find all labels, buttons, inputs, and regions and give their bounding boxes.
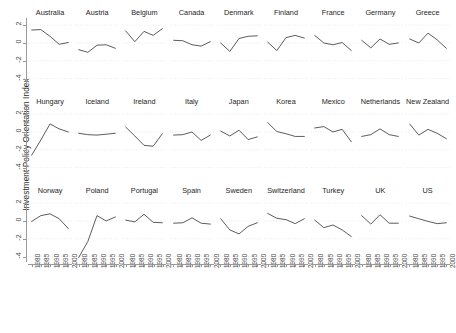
panel-denmark: Denmark — [217, 8, 261, 84]
series-plot — [170, 107, 214, 173]
series-plot — [28, 196, 72, 262]
y-tick-label: -2 — [15, 52, 22, 66]
plot-area — [75, 18, 119, 84]
plot-area — [358, 196, 402, 262]
series-plot — [75, 107, 119, 173]
data-line — [126, 127, 163, 146]
y-tick-label: -2 — [15, 230, 22, 244]
x-tick-mark — [446, 265, 447, 267]
x-tick-mark — [41, 265, 42, 267]
panel-title: New Zealand — [406, 97, 450, 106]
data-line — [362, 129, 399, 137]
series-plot — [406, 196, 450, 262]
panel-title: Portugal — [122, 186, 166, 195]
x-tick-mark — [362, 265, 363, 267]
plot-area — [170, 18, 214, 84]
x-tick-mark — [135, 265, 136, 267]
y-tick-mark — [23, 168, 26, 169]
data-line — [268, 123, 305, 137]
panel-title: Spain — [170, 186, 214, 195]
y-tick-label: -2 — [15, 141, 22, 155]
data-line — [362, 215, 399, 224]
x-tick-mark — [315, 265, 316, 267]
series-plot — [406, 18, 450, 84]
x-tick-mark — [380, 265, 381, 267]
data-line — [409, 124, 446, 139]
x-tick-mark — [409, 265, 410, 267]
x-tick-mark — [79, 265, 80, 267]
panel-title: Mexico — [311, 97, 355, 106]
plot-area — [358, 107, 402, 173]
series-plot — [75, 18, 119, 84]
x-tick-mark — [268, 265, 269, 267]
x-tick-mark — [97, 265, 98, 267]
panel-title: Iceland — [75, 97, 119, 106]
x-tick-mark — [239, 265, 240, 267]
panel-title: Greece — [406, 8, 450, 17]
plot-area — [170, 107, 214, 173]
plot-area — [406, 196, 450, 262]
panel-austria: Austria — [75, 8, 119, 84]
plot-area — [122, 196, 166, 262]
panel-hungary: Hungary — [28, 97, 72, 173]
x-tick-mark — [428, 265, 429, 267]
data-line — [32, 30, 69, 45]
y-tick-label: 0 — [15, 34, 22, 48]
panel-title: Denmark — [217, 8, 261, 17]
x-tick-mark — [418, 265, 419, 267]
data-line — [126, 214, 163, 222]
panel-title: Netherlands — [358, 97, 402, 106]
x-tick-mark — [144, 265, 145, 267]
data-line — [362, 39, 399, 48]
series-plot — [170, 18, 214, 84]
panel-germany: Germany — [358, 8, 402, 84]
plot-area — [28, 107, 72, 173]
y-axis-line — [26, 18, 27, 84]
y-tick-label: 2 — [15, 195, 22, 209]
series-plot — [170, 196, 214, 262]
panel-title: Hungary — [28, 97, 72, 106]
x-tick-mark — [324, 265, 325, 267]
x-tick-mark — [399, 265, 400, 267]
plot-area — [170, 196, 214, 262]
series-plot — [28, 18, 72, 84]
panel-italy: Italy — [170, 97, 214, 173]
x-tick-mark — [286, 265, 287, 267]
panel-title: Japan — [217, 97, 261, 106]
x-tick-mark — [88, 265, 89, 267]
x-tick-mark — [163, 265, 164, 267]
data-line — [315, 127, 352, 142]
panel-us: US — [406, 186, 450, 262]
panel-title: Poland — [75, 186, 119, 195]
panel-canada: Canada — [170, 8, 214, 84]
panel-poland: Poland — [75, 186, 119, 262]
series-plot — [311, 18, 355, 84]
series-plot — [122, 18, 166, 84]
x-tick-mark — [304, 265, 305, 267]
plot-area — [264, 196, 308, 262]
plot-area — [28, 18, 72, 84]
x-tick-mark — [220, 265, 221, 267]
x-tick-mark — [210, 265, 211, 267]
panel-ireland: Ireland — [122, 97, 166, 173]
y-tick-mark — [23, 61, 26, 62]
x-tick-mark — [126, 265, 127, 267]
plot-area — [311, 107, 355, 173]
series-plot — [311, 107, 355, 173]
series-plot — [217, 18, 261, 84]
data-line — [32, 124, 69, 155]
x-tick-mark — [257, 265, 258, 267]
data-line — [173, 132, 210, 140]
data-line — [220, 36, 257, 52]
series-plot — [311, 196, 355, 262]
data-line — [268, 213, 305, 223]
panel-korea: Korea — [264, 97, 308, 173]
panel-title: Korea — [264, 97, 308, 106]
plot-area — [311, 18, 355, 84]
data-line — [79, 133, 116, 135]
x-tick-mark — [437, 265, 438, 267]
panel-title: Austria — [75, 8, 119, 17]
y-tick-label: 2 — [15, 106, 22, 120]
panel-new-zealand: New Zealand — [406, 97, 450, 173]
panel-title: Germany — [358, 8, 402, 17]
